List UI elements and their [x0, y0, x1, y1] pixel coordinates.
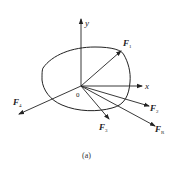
rigid-body-outline [42, 47, 130, 111]
force-f1-label: F1 [122, 38, 132, 49]
force-f4-label: F4 [12, 97, 22, 108]
force-f2-label: F2 [149, 103, 159, 114]
force-f4-arrow [19, 86, 81, 114]
x-axis-label: x [144, 81, 149, 91]
force-fr-arrow [81, 86, 155, 126]
force-diagram: y x 0 F1 F2 FR F3 F4 (a) [0, 0, 175, 172]
force-f1-arrow [81, 51, 121, 86]
force-fr-label: FR [154, 124, 165, 135]
force-f3-arrow [81, 86, 109, 119]
figure-caption: (a) [82, 151, 91, 160]
force-f3-label: F3 [98, 122, 108, 133]
origin-label: 0 [76, 91, 80, 99]
y-axis-label: y [84, 18, 89, 28]
force-f2-arrow [81, 86, 149, 106]
